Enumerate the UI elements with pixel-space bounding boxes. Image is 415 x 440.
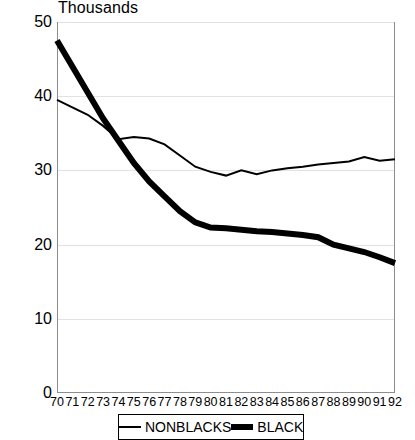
x-axis-tick-label: 70 bbox=[50, 395, 64, 409]
x-axis-tick-label: 89 bbox=[342, 395, 356, 409]
x-axis-tick-label: 90 bbox=[357, 395, 371, 409]
x-axis-tick-label: 92 bbox=[388, 395, 402, 409]
legend: NONBLACKS BLACKS bbox=[118, 414, 304, 440]
x-axis-tick-label: 71 bbox=[65, 395, 79, 409]
y-axis-tick-label: 20 bbox=[4, 236, 52, 254]
legend-swatch-blacks-icon bbox=[231, 424, 253, 430]
y-axis-tick-label: 40 bbox=[4, 87, 52, 105]
legend-item-nonblacks: NONBLACKS bbox=[119, 419, 231, 435]
x-axis-tick-label: 86 bbox=[296, 395, 310, 409]
x-axis-tick-label: 75 bbox=[127, 395, 141, 409]
x-axis-tick-label: 84 bbox=[265, 395, 279, 409]
y-axis-tick-label: 30 bbox=[4, 161, 52, 179]
x-axis-tick-label: 76 bbox=[142, 395, 156, 409]
legend-label-blacks: BLACKS bbox=[257, 419, 304, 435]
x-axis-tick-label: 83 bbox=[250, 395, 264, 409]
x-axis-tick-label: 74 bbox=[112, 395, 126, 409]
x-axis-tick-label: 72 bbox=[81, 395, 95, 409]
x-axis-tick-label: 77 bbox=[158, 395, 172, 409]
x-axis-tick-label: 73 bbox=[96, 395, 110, 409]
x-axis-tick-label: 79 bbox=[188, 395, 202, 409]
legend-swatch-nonblacks-icon bbox=[119, 426, 141, 428]
x-axis-tick-label: 80 bbox=[204, 395, 218, 409]
x-axis-tick-label: 87 bbox=[311, 395, 325, 409]
x-axis-tick-label: 88 bbox=[327, 395, 341, 409]
y-axis-tick-label: 50 bbox=[4, 13, 52, 31]
x-axis-tick-label: 91 bbox=[373, 395, 387, 409]
x-axis-tick-label: 85 bbox=[281, 395, 295, 409]
y-axis-tick-label: 10 bbox=[4, 310, 52, 328]
legend-label-nonblacks: NONBLACKS bbox=[145, 419, 231, 435]
x-axis-tick-label: 82 bbox=[234, 395, 248, 409]
legend-item-blacks: BLACKS bbox=[231, 419, 304, 435]
x-axis-tick-label: 78 bbox=[173, 395, 187, 409]
x-axis-tick-label: 81 bbox=[219, 395, 233, 409]
x-axis-tick-labels: 7071727374757677787980818283848586878889… bbox=[0, 395, 415, 413]
